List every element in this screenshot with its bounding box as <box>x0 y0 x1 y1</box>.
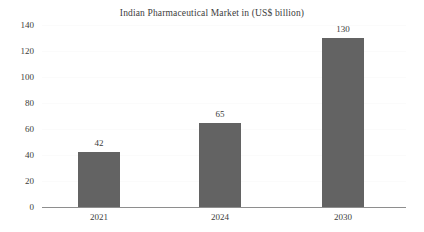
y-tick-100: 100 <box>0 72 34 82</box>
y-tick-40: 40 <box>0 150 34 160</box>
y-tick-0: 0 <box>0 202 34 212</box>
y-tick-20: 20 <box>0 176 34 186</box>
y-tick-60: 60 <box>0 124 34 134</box>
x-tick-2030: 2030 <box>322 212 364 222</box>
x-tick-2024: 2024 <box>199 212 241 222</box>
y-axis: 140 120 100 80 60 40 20 0 <box>0 0 38 232</box>
x-tick-2021: 2021 <box>78 212 120 222</box>
x-axis: 2021 2024 2030 <box>42 0 406 232</box>
y-tick-120: 120 <box>0 46 34 56</box>
y-tick-80: 80 <box>0 98 34 108</box>
bar-chart: Indian Pharmaceutical Market in (US$ bil… <box>0 0 424 232</box>
y-tick-140: 140 <box>0 20 34 30</box>
